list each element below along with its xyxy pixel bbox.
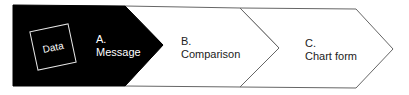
- data-box: Data: [29, 23, 76, 70]
- step-b-text: Comparison: [181, 48, 240, 61]
- step-b-letter: B.: [181, 35, 240, 48]
- step-c-letter: C.: [305, 37, 357, 50]
- step-a-letter: A.: [96, 33, 141, 46]
- step-c-label: C. Chart form: [305, 37, 357, 63]
- step-a-text: Message: [96, 46, 141, 59]
- data-label: Data: [42, 39, 65, 54]
- step-a-label: A. Message: [96, 33, 141, 59]
- step-c-text: Chart form: [305, 50, 357, 63]
- step-b-label: B. Comparison: [181, 35, 240, 61]
